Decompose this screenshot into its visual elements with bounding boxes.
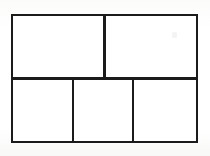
cell-top-right bbox=[106, 17, 196, 77]
cell-top-left bbox=[14, 17, 103, 77]
divider-bottom-column-1 bbox=[72, 78, 75, 143]
cell-bottom-left bbox=[14, 81, 72, 141]
divider-bottom-column-2 bbox=[132, 78, 135, 143]
cell-bottom-middle bbox=[75, 81, 131, 141]
cell-bottom-right bbox=[135, 81, 196, 141]
divider-top-column bbox=[103, 14, 106, 78]
diagram-canvas bbox=[0, 0, 210, 156]
